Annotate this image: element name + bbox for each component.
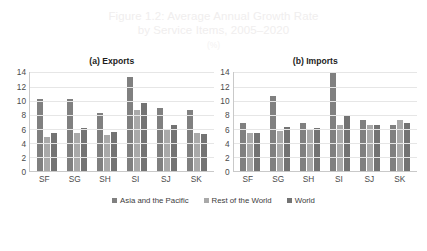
y-tick-label: 4: [225, 139, 230, 149]
x-tick-label: SG: [59, 174, 89, 184]
x-tick-label: SF: [233, 174, 263, 184]
figure-title-line-1: Figure 1.2: Average Annual Growth Rate: [0, 9, 427, 23]
bar: [201, 134, 207, 171]
gridline: [234, 115, 418, 116]
bar: [164, 130, 170, 171]
y-tick-label: 12: [17, 82, 26, 92]
chart-panel-imports: (b) Imports 02468101214 SFSGSHSISJSK: [214, 56, 418, 184]
gridline: [30, 72, 214, 73]
y-tick-label: 14: [17, 67, 26, 77]
bar: [37, 99, 43, 171]
x-axis-exports: SFSGSHSISJSK: [10, 174, 214, 184]
y-tick-label: 4: [21, 139, 26, 149]
legend-item[interactable]: Asia and the Pacific: [112, 196, 188, 205]
x-tick-label: SJ: [354, 174, 384, 184]
bar: [367, 125, 373, 171]
y-tick-label: 6: [21, 125, 26, 135]
legend-item[interactable]: World: [287, 196, 315, 205]
gridline: [30, 115, 214, 116]
x-tick-label: SI: [324, 174, 354, 184]
x-tick-label: SK: [181, 174, 211, 184]
bar: [187, 110, 193, 172]
gridline: [234, 157, 418, 158]
bar: [374, 125, 380, 172]
chart-panels: (a) Exports 02468101214 SFSGSHSISJSK (b)…: [0, 56, 427, 184]
gridline: [234, 143, 418, 144]
plot-area-imports: [233, 72, 418, 172]
gridline: [30, 143, 214, 144]
bar: [277, 131, 283, 171]
gridline: [30, 87, 214, 88]
bar: [111, 132, 117, 172]
y-tick-label: 0: [225, 167, 230, 177]
figure-title-block: Figure 1.2: Average Annual Growth Rate b…: [0, 0, 427, 50]
gridline: [234, 101, 418, 102]
bar: [44, 137, 50, 172]
x-tick-label: SK: [385, 174, 415, 184]
bar: [134, 110, 140, 172]
y-tick-label: 0: [21, 167, 26, 177]
legend-label: World: [295, 196, 315, 205]
y-tick-label: 8: [21, 110, 26, 120]
legend-label: Asia and the Pacific: [120, 196, 188, 205]
gridline: [30, 101, 214, 102]
x-tick-label: SG: [263, 174, 293, 184]
y-axis-exports: 02468101214: [12, 72, 29, 172]
bar: [74, 133, 80, 171]
gridline: [234, 87, 418, 88]
bar: [240, 123, 246, 171]
x-axis-imports: SFSGSHSISJSK: [214, 174, 418, 184]
bar: [194, 133, 200, 171]
x-tick-label: SH: [90, 174, 120, 184]
bar: [314, 128, 320, 172]
plot-wrap-imports: 02468101214: [214, 72, 418, 172]
legend-item[interactable]: Rest of the World: [204, 196, 272, 205]
figure-unit-label: (%): [0, 40, 427, 50]
bar: [157, 108, 163, 171]
bar: [307, 129, 313, 171]
gridline: [234, 129, 418, 130]
x-tick-label: SI: [120, 174, 150, 184]
figure-title-line-2: by Service Items, 2005–2020: [0, 23, 427, 37]
y-tick-label: 2: [225, 153, 230, 163]
legend-swatch-icon: [287, 198, 292, 203]
bar: [247, 133, 253, 172]
bar: [104, 135, 110, 171]
bar: [254, 133, 260, 171]
gridline: [234, 72, 418, 73]
figure-footnote-clipped: [0, 240, 427, 251]
x-tick-label: SF: [29, 174, 59, 184]
y-tick-label: 14: [220, 67, 229, 77]
x-tick-label: SJ: [151, 174, 181, 184]
panel-title-imports: (b) Imports: [214, 56, 418, 66]
legend-label: Rest of the World: [212, 196, 272, 205]
y-tick-label: 12: [220, 82, 229, 92]
y-tick-label: 10: [220, 96, 229, 106]
bar: [51, 133, 57, 172]
gridline: [30, 129, 214, 130]
bar: [284, 127, 290, 172]
y-axis-imports: 02468101214: [216, 72, 233, 172]
figure-container: Figure 1.2: Average Annual Growth Rate b…: [0, 0, 427, 251]
chart-legend: Asia and the PacificRest of the WorldWor…: [0, 196, 427, 205]
bar: [270, 96, 276, 172]
bar: [397, 120, 403, 172]
chart-panel-exports: (a) Exports 02468101214 SFSGSHSISJSK: [10, 56, 214, 184]
plot-area-exports: [29, 72, 214, 172]
plot-wrap-exports: 02468101214: [10, 72, 214, 172]
bar: [390, 125, 396, 172]
y-tick-label: 2: [21, 153, 26, 163]
legend-swatch-icon: [204, 198, 209, 203]
legend-swatch-icon: [112, 198, 117, 203]
gridline: [30, 157, 214, 158]
bar: [300, 123, 306, 171]
bar: [171, 125, 177, 171]
bar: [337, 125, 343, 172]
bar: [81, 128, 87, 172]
panel-title-exports: (a) Exports: [10, 56, 214, 66]
bar: [141, 103, 147, 172]
y-tick-label: 10: [17, 96, 26, 106]
x-tick-label: SH: [293, 174, 323, 184]
y-tick-label: 6: [225, 125, 230, 135]
y-tick-label: 8: [225, 110, 230, 120]
